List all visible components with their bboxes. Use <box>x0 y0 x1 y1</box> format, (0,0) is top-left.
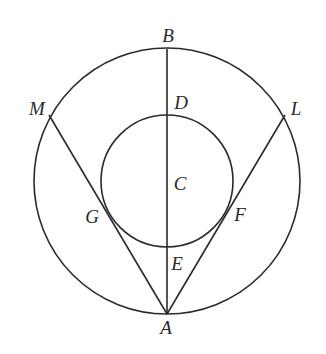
figure-canvas <box>0 0 326 354</box>
label-point-g: G <box>85 207 99 226</box>
label-point-m: M <box>29 99 45 118</box>
label-point-b: B <box>162 26 174 45</box>
label-point-l: L <box>291 99 302 118</box>
label-point-e: E <box>171 254 183 273</box>
label-point-f: F <box>234 205 246 224</box>
label-point-c: C <box>174 174 187 193</box>
segment-ma <box>49 115 167 314</box>
segment-la <box>167 115 285 314</box>
label-point-a: A <box>160 318 172 337</box>
label-point-d: D <box>174 93 188 112</box>
geometry-figure: B D M L C G F E A <box>0 0 326 354</box>
